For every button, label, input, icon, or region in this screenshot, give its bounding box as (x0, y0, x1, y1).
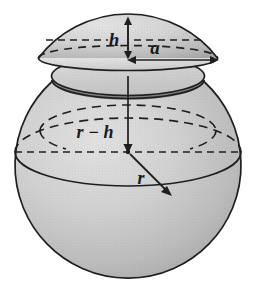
label-h: h (109, 29, 120, 50)
sphere-center-dot (126, 150, 130, 154)
label-r: r (137, 168, 145, 188)
label-a: a (150, 37, 160, 58)
label-r-minus-h: r − h (77, 122, 114, 142)
spherical-cap-figure: h a r − h r (0, 0, 266, 285)
figure-canvas: h a r − h r (0, 0, 266, 285)
